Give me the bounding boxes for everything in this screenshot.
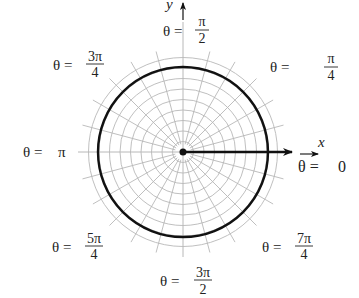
grid-spoke [189,79,257,147]
theta-3pi-4-denominator: 4 [92,65,99,80]
theta-3pi-2-prefix: θ = [160,273,183,289]
theta-7pi-4-numerator: 7π [297,231,311,246]
theta-3pi-4-numerator: 3π [88,49,102,64]
theta-5pi-4-denominator: 4 [91,247,98,262]
grid-spoke [190,156,273,204]
grid-spoke [189,158,257,226]
grid-spoke [190,100,273,148]
grid-spoke [131,62,179,145]
label-theta-7pi-4: θ = 7π 4 [262,231,313,262]
theta-pi-2-numerator: π [198,14,205,29]
origin-point [180,149,187,156]
theta-7pi-4-prefix: θ = [262,239,285,255]
theta-3pi-2-denominator: 2 [200,282,207,297]
grid-spoke [131,159,179,242]
y-axis-label: y [164,0,173,12]
theta-5pi-4-prefix: θ = [52,239,75,255]
grid-spoke [187,62,235,145]
label-theta-pi-4: θ = π 4 [270,51,338,83]
theta-3pi-4-prefix: θ = [53,57,76,73]
label-theta-pi: θ = π [23,144,66,160]
theta-pi-prefix: θ = [23,144,46,160]
theta-pi-4-denominator: 4 [328,68,335,83]
theta-7pi-4-denominator: 4 [301,247,308,262]
theta-0-value: 0 [338,158,346,175]
polar-diagram: x y θ = 0 θ = π 4 θ = π 2 θ = 3π 4 θ = π… [0,0,359,298]
grid-spoke [110,79,178,147]
label-theta-3pi-4: θ = 3π 4 [53,49,104,80]
label-theta-3pi-2: θ = 3π 2 [160,265,212,297]
theta-pi-value: π [58,144,66,160]
grid-spoke [93,100,176,148]
label-theta-0: θ = 0 [298,158,346,175]
theta-5pi-4-numerator: 5π [87,231,101,246]
theta-pi-2-prefix: θ = [163,23,186,39]
theta-pi-4-numerator: π [327,51,334,66]
theta-3pi-2-numerator: 3π [196,265,210,280]
theta-0-prefix: θ = [298,158,323,175]
grid-spoke [110,158,178,226]
theta-pi-2-denominator: 2 [199,31,206,46]
grid-spoke [93,156,176,204]
label-theta-pi-2: θ = π 2 [163,14,209,46]
label-theta-5pi-4: θ = 5π 4 [52,231,103,262]
grid-spoke [187,159,235,242]
x-axis-label: x [317,134,325,150]
theta-pi-4-prefix: θ = [270,59,293,75]
